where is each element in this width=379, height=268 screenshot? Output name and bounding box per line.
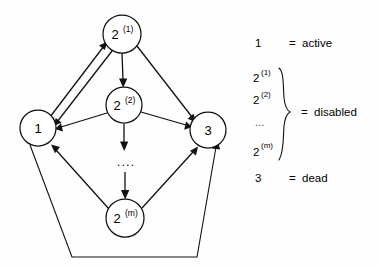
edge-ellipsis-to-node2-m [121, 172, 129, 200]
legend-key-active: 1 [255, 37, 261, 49]
legend-key-disabled-m-base: 2 [253, 146, 259, 158]
legend-value-active: active [302, 37, 332, 49]
legend-equals-disabled: = [301, 106, 308, 118]
edge-node2-2-to-ellipsis [120, 124, 128, 151]
graph-nodes: 1 2 (1) 2 (2) 2 (m) 3 .... [20, 15, 226, 237]
state-transition-diagram: 1 2 (1) 2 (2) 2 (m) 3 .... 1 = [0, 0, 379, 268]
node-2-m[interactable]: 2 (m) [106, 199, 144, 237]
legend-equals-dead: = [289, 172, 296, 184]
legend: 1 = active 2 (1) 2 (2) ... 2 (m) = disab… [253, 37, 357, 184]
node-2-m-superscript-label: (m) [125, 208, 138, 218]
edge-node2-m-to-node1 [51, 145, 109, 210]
node-2-2-superscript-label: (2) [125, 95, 136, 105]
edge-node2-2-to-node3 [141, 112, 192, 130]
legend-key-disabled-2-base: 2 [253, 94, 259, 106]
legend-key-disabled-ellipsis: ... [255, 117, 265, 128]
legend-value-disabled: disabled [314, 106, 357, 118]
legend-key-dead: 3 [255, 172, 261, 184]
legend-key-disabled-1-sup: (1) [261, 68, 271, 77]
node-3[interactable]: 3 [190, 112, 226, 148]
legend-curly-brace [279, 68, 290, 160]
edge-node2-m-to-node3 [142, 147, 198, 209]
edge-node2-1-to-node1 [53, 51, 112, 127]
legend-row-active: 1 = active [255, 37, 332, 49]
node-2-m-base-label: 2 [113, 211, 120, 226]
edge-node2-2-to-node1 [55, 113, 107, 132]
node-1-label: 1 [34, 121, 41, 136]
legend-row-disabled: 2 (1) 2 (2) ... 2 (m) = disabled [253, 68, 357, 160]
node-2-2[interactable]: 2 (2) [106, 87, 142, 123]
edge-node1-to-node2-1 [50, 42, 108, 118]
legend-value-dead: dead [302, 172, 328, 184]
legend-equals-active: = [289, 37, 296, 49]
legend-row-dead: 3 = dead [255, 172, 328, 184]
node-2-1[interactable]: 2 (1) [103, 15, 141, 53]
legend-key-disabled-2-sup: (2) [261, 90, 271, 99]
edge-node2-1-to-node3 [137, 46, 197, 123]
edge-node2-1-to-node2-2 [119, 53, 127, 88]
graph-vertical-ellipsis: .... [117, 154, 135, 169]
node-2-1-base-label: 2 [111, 27, 118, 42]
node-3-label: 3 [204, 123, 211, 138]
node-1[interactable]: 1 [20, 110, 56, 146]
node-2-1-superscript-label: (1) [123, 24, 134, 34]
legend-key-disabled-m-sup: (m) [261, 141, 273, 150]
node-2-2-base-label: 2 [113, 98, 120, 113]
legend-key-disabled-1-base: 2 [253, 72, 259, 84]
